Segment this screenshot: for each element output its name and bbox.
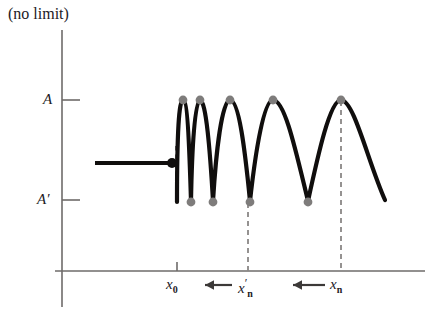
peak-marker bbox=[179, 96, 188, 105]
arrow-left-to-x0 bbox=[205, 280, 232, 290]
constant-branch-group bbox=[95, 158, 177, 168]
x-axis-label-x0: x0 bbox=[166, 277, 178, 295]
arrow-left-to-xn-prime bbox=[293, 280, 325, 290]
x-axis-label-x0-base: x bbox=[166, 276, 173, 292]
x-axis-label-xn-prime-base: x bbox=[238, 280, 245, 296]
peak-marker bbox=[337, 96, 346, 105]
x-axis-label-x0-subscript: 0 bbox=[173, 284, 178, 295]
x-axis-label-xn-prime: x′n bbox=[238, 277, 253, 299]
dashed-guides-group bbox=[177, 101, 341, 271]
y-axis-label-A: A bbox=[43, 92, 52, 107]
oscillating-curve-group bbox=[177, 100, 385, 202]
leftward-arrows-group bbox=[205, 280, 325, 290]
y-axis-label-A-prime: A′ bbox=[37, 192, 49, 207]
peak-marker bbox=[226, 96, 235, 105]
figure-caption: (no limit) bbox=[8, 6, 69, 22]
y-axis-label-A-prime-mark: ′ bbox=[46, 191, 49, 207]
figure-no-limit: (no limit) A A′ x0 x′n xn bbox=[0, 0, 427, 325]
trough-marker bbox=[187, 198, 196, 207]
trough-marker bbox=[209, 198, 218, 207]
axes-group bbox=[55, 30, 425, 307]
diagram-canvas bbox=[0, 0, 427, 325]
trough-marker bbox=[304, 198, 313, 207]
trough-marker bbox=[246, 198, 255, 207]
peak-marker bbox=[196, 96, 205, 105]
x-axis-label-xn-prime-subscript: n bbox=[247, 288, 253, 299]
y-axis-label-A-prime-base: A bbox=[37, 191, 46, 207]
x-axis-label-xn-base: x bbox=[330, 276, 337, 292]
peak-marker bbox=[269, 96, 278, 105]
oscillating-curve bbox=[177, 100, 385, 202]
x-axis-label-xn-subscript: n bbox=[337, 284, 343, 295]
x-axis-label-xn: xn bbox=[330, 277, 342, 295]
